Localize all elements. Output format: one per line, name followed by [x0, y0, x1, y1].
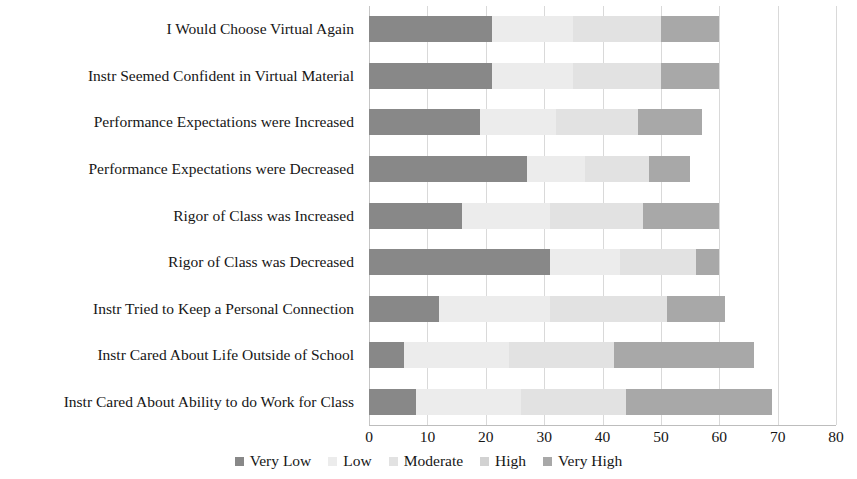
- bar-segment-very-high: [696, 249, 719, 275]
- bar-segment-low: [480, 109, 556, 135]
- bar-row: [369, 63, 836, 89]
- stacked-bar-chart: I Would Choose Virtual AgainInstr Seemed…: [0, 0, 857, 479]
- legend-label: High: [495, 452, 526, 470]
- bar-row: [369, 16, 836, 42]
- bar-segment-low: [404, 342, 509, 368]
- legend-label: Very High: [558, 452, 622, 470]
- category-label: Instr Cared About Life Outside of School: [97, 342, 354, 368]
- bar-row: [369, 342, 836, 368]
- legend-label: Low: [343, 452, 371, 470]
- bar-stack: [369, 109, 836, 135]
- bar-segment-low: [462, 203, 550, 229]
- legend-swatch-icon: [328, 457, 337, 466]
- bar-segment-moderate: [550, 203, 643, 229]
- bar-segment-low: [527, 156, 585, 182]
- bar-segment-low: [550, 249, 620, 275]
- bar-stack: [369, 342, 836, 368]
- bar-segment-very-high: [661, 16, 719, 42]
- bar-row: [369, 389, 836, 415]
- legend-item-very-high: Very High: [543, 452, 622, 470]
- x-tick-label-50: 50: [653, 427, 669, 447]
- bar-segment-very-low: [369, 342, 404, 368]
- bar-stack: [369, 156, 836, 182]
- x-tick-label-40: 40: [595, 427, 611, 447]
- bar-segment-very-low: [369, 63, 492, 89]
- bar-segment-moderate: [573, 16, 661, 42]
- bar-segment-moderate: [521, 389, 626, 415]
- bar-segment-moderate: [509, 342, 614, 368]
- category-label: Performance Expectations were Decreased: [88, 156, 354, 182]
- category-label: Rigor of Class was Decreased: [168, 249, 354, 275]
- x-tick-label-10: 10: [420, 427, 436, 447]
- legend-swatch-icon: [480, 457, 489, 466]
- legend-swatch-icon: [543, 457, 552, 466]
- bar-stack: [369, 389, 836, 415]
- legend-swatch-icon: [235, 457, 244, 466]
- legend-item-low: Low: [328, 452, 371, 470]
- legend-item-high: High: [480, 452, 526, 470]
- bar-segment-low: [492, 63, 574, 89]
- bar-segment-very-low: [369, 296, 439, 322]
- bar-stack: [369, 296, 836, 322]
- gridline-80: [836, 6, 837, 425]
- legend-label: Very Low: [250, 452, 312, 470]
- bar-segment-low: [492, 16, 574, 42]
- bar-segment-very-low: [369, 249, 550, 275]
- bar-row: [369, 109, 836, 135]
- category-label: Instr Tried to Keep a Personal Connectio…: [93, 296, 354, 322]
- bar-segment-very-high: [667, 296, 725, 322]
- legend-item-very-low: Very Low: [235, 452, 312, 470]
- x-tick-label-30: 30: [536, 427, 552, 447]
- category-label: Performance Expectations were Increased: [94, 109, 354, 135]
- bar-segment-very-high: [649, 156, 690, 182]
- category-axis-labels: I Would Choose Virtual AgainInstr Seemed…: [0, 6, 362, 425]
- bar-stack: [369, 249, 836, 275]
- bar-stack: [369, 63, 836, 89]
- legend-item-moderate: Moderate: [389, 452, 463, 470]
- category-label: I Would Choose Virtual Again: [166, 16, 354, 42]
- bar-row: [369, 249, 836, 275]
- bar-segment-very-low: [369, 109, 480, 135]
- bar-segment-very-low: [369, 203, 462, 229]
- bar-segment-moderate: [550, 296, 667, 322]
- bar-segment-very-low: [369, 16, 492, 42]
- bar-segment-very-high: [614, 342, 754, 368]
- bar-segment-very-high: [643, 203, 719, 229]
- bar-row: [369, 156, 836, 182]
- bar-segment-low: [439, 296, 550, 322]
- bar-segment-very-low: [369, 156, 527, 182]
- x-tick-label-60: 60: [712, 427, 728, 447]
- bar-segment-very-low: [369, 389, 416, 415]
- bar-segment-moderate: [585, 156, 649, 182]
- x-axis-line: [369, 425, 836, 426]
- legend-label: Moderate: [404, 452, 463, 470]
- bar-row: [369, 203, 836, 229]
- x-tick-label-70: 70: [770, 427, 786, 447]
- x-tick-label-0: 0: [365, 427, 373, 447]
- legend-swatch-icon: [389, 457, 398, 466]
- category-label: Instr Cared About Ability to do Work for…: [64, 389, 354, 415]
- bar-segment-moderate: [573, 63, 661, 89]
- bar-segment-moderate: [556, 109, 638, 135]
- category-label: Instr Seemed Confident in Virtual Materi…: [88, 63, 354, 89]
- bar-segment-very-high: [638, 109, 702, 135]
- bar-stack: [369, 16, 836, 42]
- x-axis-tick-labels: 01020304050607080: [369, 427, 836, 447]
- bar-segment-very-high: [626, 389, 772, 415]
- category-label: Rigor of Class was Increased: [173, 203, 354, 229]
- x-tick-label-20: 20: [478, 427, 494, 447]
- bar-row: [369, 296, 836, 322]
- bar-segment-moderate: [620, 249, 696, 275]
- x-tick-label-80: 80: [828, 427, 844, 447]
- bar-segment-low: [416, 389, 521, 415]
- bar-rows: [369, 6, 836, 425]
- plot-area: [369, 6, 836, 425]
- bar-stack: [369, 203, 836, 229]
- bar-segment-very-high: [661, 63, 719, 89]
- chart-legend: Very LowLowModerateHighVery High: [0, 452, 857, 470]
